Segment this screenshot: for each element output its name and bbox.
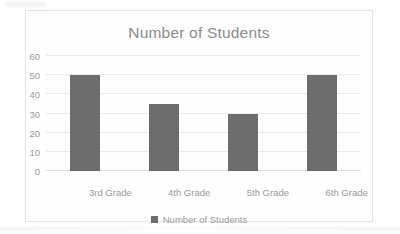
bar-slot <box>46 56 125 171</box>
bar[interactable] <box>307 75 337 171</box>
bar[interactable] <box>228 114 258 172</box>
y-axis-tick-label: 60 <box>29 51 40 62</box>
x-axis-category-label: 3rd Grade <box>71 187 150 198</box>
x-axis-category-label: 5th Grade <box>229 187 308 198</box>
x-axis-category-labels: 3rd Grade4th Grade5th Grade6th Grade <box>71 187 386 198</box>
chart-frame: Number of Students 0102030405060 3rd Gra… <box>25 10 373 222</box>
bar[interactable] <box>149 104 179 171</box>
chart-title: Number of Students <box>26 24 372 42</box>
bar-series <box>46 56 361 171</box>
plot-area: 0102030405060 <box>46 56 361 171</box>
bar[interactable] <box>70 75 100 171</box>
y-axis-tick-label: 30 <box>29 108 40 119</box>
y-axis-tick-label: 40 <box>29 89 40 100</box>
y-axis-tick-label: 10 <box>29 146 40 157</box>
legend-label: Number of Students <box>163 214 248 225</box>
square-marker-icon <box>151 216 158 223</box>
bar-slot <box>125 56 204 171</box>
y-axis-tick-label: 0 <box>35 166 40 177</box>
x-axis-category-label: 6th Grade <box>307 187 386 198</box>
y-axis-tick-label: 50 <box>29 70 40 81</box>
scan-smudge-top <box>6 2 46 7</box>
chart-legend: Number of Students <box>26 214 372 225</box>
x-axis-category-label: 4th Grade <box>150 187 229 198</box>
bar-slot <box>282 56 361 171</box>
bar-slot <box>204 56 283 171</box>
y-axis-tick-label: 20 <box>29 127 40 138</box>
scan-smudge-bottom <box>0 227 400 230</box>
